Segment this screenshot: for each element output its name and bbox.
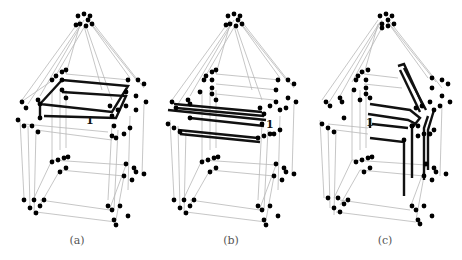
panel-c: 1 (c)	[308, 0, 462, 260]
wireframe-graph-b: 1	[154, 0, 308, 230]
edge-label-a: 1	[86, 114, 94, 127]
panel-b: 1 (b)	[154, 0, 308, 260]
caption-c: (c)	[308, 234, 462, 247]
caption-a: (a)	[0, 234, 154, 247]
wireframe-graph-a: 1	[0, 0, 154, 230]
panel-a: 1 (a)	[0, 0, 154, 260]
edge-label-b: 1	[266, 118, 274, 131]
wireframe-graph-c: 1	[308, 0, 462, 230]
caption-b: (b)	[154, 234, 308, 247]
edge-label-c: 1	[366, 116, 374, 129]
